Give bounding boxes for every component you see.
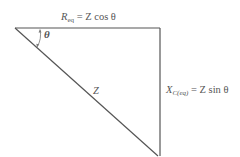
impedance-hypotenuse [15, 28, 158, 156]
angle-label: θ [44, 28, 50, 40]
reactance-label: XC(eq) = Z sin θ [165, 84, 229, 97]
impedance-label: Z [93, 85, 99, 96]
resistance-label: Req = Z cos θ [60, 11, 116, 24]
impedance-triangle-diagram: Req = Z cos θ θ Z XC(eq) = Z sin θ [0, 0, 240, 157]
angle-arrow-icon [39, 30, 42, 33]
